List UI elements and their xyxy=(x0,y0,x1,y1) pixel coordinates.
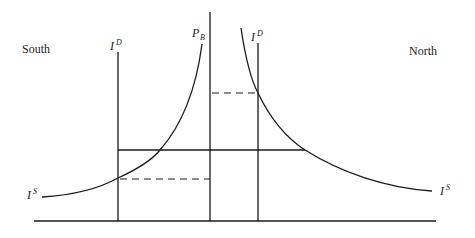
north-demand-label-sup: D xyxy=(256,29,263,38)
north-supply-curve xyxy=(241,28,432,191)
north-supply-label: I S xyxy=(439,183,450,198)
north-demand-label-base: I xyxy=(250,30,256,44)
north-label: North xyxy=(409,44,437,58)
south-supply-label-base: I xyxy=(26,188,32,202)
price-label-base: P xyxy=(191,26,200,40)
south-supply-label-sup: S xyxy=(33,187,37,196)
price-border-label: P B xyxy=(191,26,205,42)
south-demand-label-base: I xyxy=(109,39,115,53)
north-supply-label-sup: S xyxy=(446,183,450,192)
north-demand-label: I D xyxy=(250,29,263,44)
south-supply-curve xyxy=(42,44,202,197)
south-demand-label-sup: D xyxy=(115,38,122,47)
north-supply-label-base: I xyxy=(439,184,445,198)
price-label-sub: B xyxy=(200,33,205,42)
trade-diagram: South North P B I D I D I S I S xyxy=(0,0,475,238)
south-demand-label: I D xyxy=(109,38,122,53)
south-label: South xyxy=(22,42,50,56)
south-supply-label: I S xyxy=(26,187,37,202)
